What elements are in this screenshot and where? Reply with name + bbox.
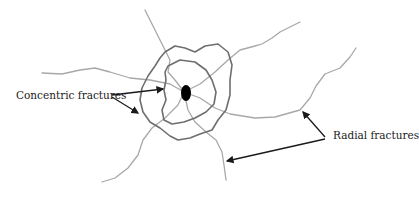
impact-point <box>181 85 191 101</box>
arrow-radial-to-right <box>303 112 325 137</box>
radial-line-top-right <box>184 22 300 92</box>
arrow-radial-to-bottom <box>227 139 325 161</box>
radial-fractures-label: Radial fractures <box>333 130 419 141</box>
concentric-fractures-label: Concentric fractures <box>16 90 126 101</box>
radial-arrows <box>227 112 325 161</box>
radial-line-bottom <box>184 92 226 180</box>
